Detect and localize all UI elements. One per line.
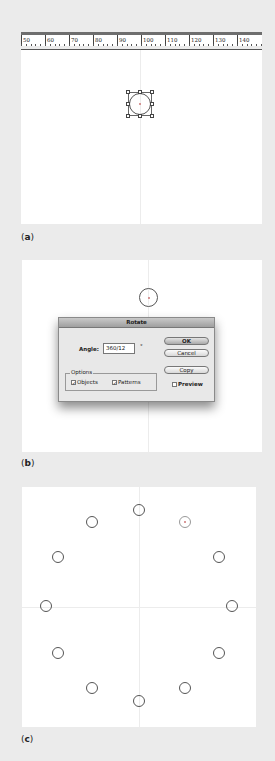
resize-handle-right[interactable] [150,102,154,106]
objects-label: Objects [77,379,98,385]
ruler-minor-ticks [21,44,262,46]
patterns-label: Patterns [118,379,141,385]
patterns-checkbox[interactable]: ✓ Patterns [112,379,141,385]
checkbox-icon [172,382,177,387]
panel-label-c: (c) [21,734,33,744]
checkmark-icon: ✓ [71,380,76,385]
preview-label: Preview [178,381,203,387]
resize-handle-top-left[interactable] [126,90,130,94]
dialog-title: Rotate [59,318,214,328]
rotate-dialog: Rotate Angle: 360/12 ° Options ✓ Objects… [58,317,215,402]
resize-handle-left[interactable] [126,102,130,106]
rotated-circle[interactable] [86,516,98,528]
degree-symbol: ° [140,343,143,350]
angle-input[interactable]: 360/12 [103,343,135,354]
rotated-circle[interactable] [52,647,64,659]
rotated-circle[interactable] [133,504,145,516]
ok-button[interactable]: OK [164,337,209,345]
checkmark-icon: ✓ [112,380,117,385]
rotated-circle[interactable] [86,682,98,694]
rotated-circle[interactable] [179,682,191,694]
cancel-button[interactable]: Cancel [164,349,209,357]
options-legend: Options [70,369,93,376]
resize-handle-top[interactable] [138,90,142,94]
rotated-circle[interactable] [40,600,52,612]
rotated-circle[interactable] [213,551,225,563]
panel-label-b: (b) [21,458,34,468]
resize-handle-bottom-left[interactable] [126,114,130,118]
resize-handle-bottom-right[interactable] [150,114,154,118]
resize-handle-top-right[interactable] [150,90,154,94]
canvas-panel-a[interactable] [21,50,262,224]
panel-label-a: (a) [21,232,34,242]
circle-center-point [148,297,150,299]
rotated-circle[interactable] [52,551,64,563]
resize-handle-bottom[interactable] [138,114,142,118]
options-group: Options ✓ Objects ✓ Patterns [65,373,157,391]
rotated-circle[interactable] [226,600,238,612]
objects-checkbox[interactable]: ✓ Objects [71,379,98,385]
vertical-guide [140,50,141,224]
horizontal-guide [22,607,256,608]
circle-center-point [184,521,186,523]
horizontal-ruler[interactable]: 50 60 70 80 90 100 110 120 130 140 [21,32,262,46]
rotated-circle[interactable] [133,695,145,707]
rotated-circle[interactable] [213,647,225,659]
circle-center-point [139,103,141,105]
preview-checkbox[interactable]: Preview [172,381,203,387]
copy-button[interactable]: Copy [164,366,209,374]
angle-label: Angle: [79,346,99,353]
canvas-panel-c[interactable] [22,487,256,727]
